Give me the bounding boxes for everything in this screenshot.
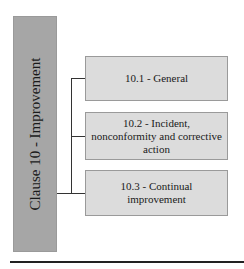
clause-10-3-label: 10.3 - Continual improvement (90, 180, 223, 206)
bottom-divider (10, 261, 244, 263)
clause-10-label: Clause 10 - Improvement (27, 58, 44, 211)
clause-10-2-box: 10.2 - Incident, nonconformity and corre… (85, 112, 228, 160)
clause-10-2-label: 10.2 - Incident, nonconformity and corre… (90, 117, 223, 156)
clause-10-box: Clause 10 - Improvement (13, 16, 57, 252)
clause-10-1-label: 10.1 - General (125, 72, 188, 85)
connector-to-10-1 (71, 78, 85, 79)
clause-10-3-box: 10.3 - Continual improvement (85, 170, 228, 216)
clause-10-1-box: 10.1 - General (85, 56, 228, 101)
connector-to-10-2 (71, 136, 85, 137)
main-connector-stub (57, 193, 71, 194)
connector-to-10-3 (71, 193, 85, 194)
